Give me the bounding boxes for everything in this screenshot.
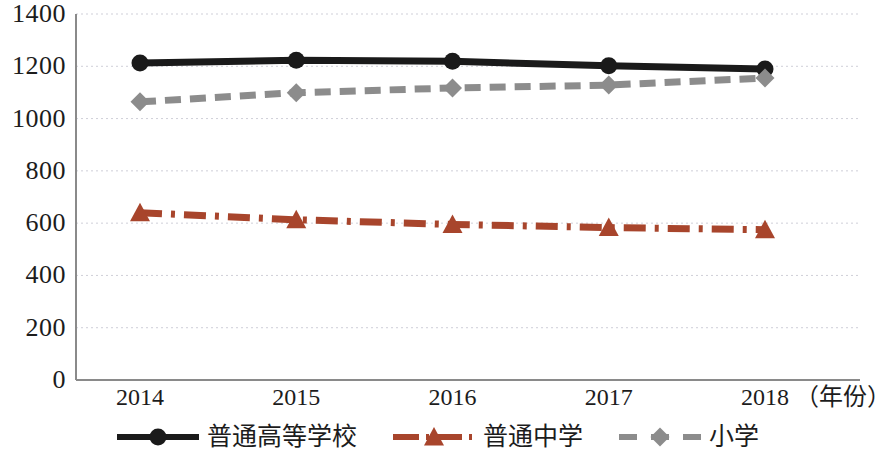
y-axis-tick-label: 0: [0, 367, 66, 393]
circle-marker: [132, 54, 149, 71]
y-axis-tick-label: 400: [0, 262, 66, 288]
diamond-marker: [617, 424, 703, 450]
x-axis-tick-label: 2017: [549, 385, 669, 409]
y-axis-tick-label: 1400: [0, 1, 66, 27]
legend-item-3[interactable]: 小学: [617, 424, 759, 450]
y-axis-tick-label: 800: [0, 158, 66, 184]
circle-marker: [600, 57, 617, 74]
series-2: [130, 203, 775, 238]
legend-label: 普通中学: [483, 424, 583, 449]
legend-item-1[interactable]: 普通高等学校: [115, 424, 357, 450]
diamond-marker: [651, 427, 670, 446]
y-axis-tick-label: 1200: [0, 53, 66, 79]
diamond-marker: [599, 76, 618, 95]
circle-marker: [150, 428, 167, 445]
chart-legend: 普通高等学校普通中学小学: [0, 418, 874, 455]
diamond-marker: [443, 78, 462, 97]
legend-item-2[interactable]: 普通中学: [391, 424, 583, 450]
triangle-marker: [391, 424, 477, 450]
circle-marker: [288, 52, 305, 69]
y-axis-tick-label: 1000: [0, 106, 66, 132]
x-axis-tick-label: 2016: [393, 385, 513, 409]
diamond-marker: [287, 83, 306, 102]
diamond-marker: [131, 92, 150, 111]
legend-label: 小学: [709, 424, 759, 449]
circle-marker: [115, 424, 201, 450]
y-axis-tick-label: 200: [0, 315, 66, 341]
x-axis-tick-label: 2015: [236, 385, 356, 409]
series-1: [132, 52, 774, 78]
y-axis-tick-label: 600: [0, 210, 66, 236]
legend-label: 普通高等学校: [207, 424, 357, 449]
x-axis-tick-label: 2014: [80, 385, 200, 409]
series-group: [130, 52, 775, 238]
x-axis-unit-label: （年份）: [795, 385, 879, 409]
series-3: [131, 69, 775, 112]
circle-marker: [444, 53, 461, 70]
